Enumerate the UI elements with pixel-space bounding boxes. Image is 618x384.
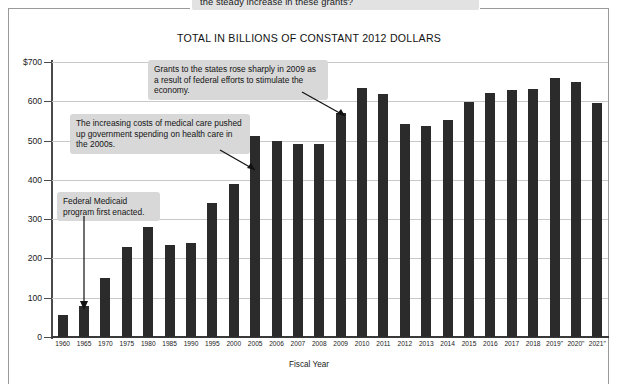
bar-2006 — [272, 141, 282, 337]
y-tick-300 — [44, 219, 52, 220]
bar-2007 — [293, 144, 303, 337]
y-axis-label-600: 600 — [2, 96, 42, 106]
bar-2011 — [378, 94, 388, 337]
y-tick-100 — [44, 298, 52, 299]
callout-medicaid-enacted: Federal Medicaid program first enacted. — [57, 192, 160, 221]
bar-1970 — [100, 278, 110, 337]
bar-2015 — [464, 102, 474, 337]
bar-2008 — [314, 144, 324, 337]
bar-2019 — [550, 78, 560, 337]
bar-2012 — [400, 124, 410, 337]
callout-2009-leader-line — [300, 90, 350, 120]
bar-1980 — [143, 227, 153, 337]
y-tick-200 — [44, 258, 52, 259]
y-tick-400 — [44, 180, 52, 181]
bar-1995 — [207, 203, 217, 337]
y-axis-label-200: 200 — [2, 253, 42, 263]
bar-1990 — [186, 243, 196, 337]
y-axis-label-400: 400 — [2, 175, 42, 185]
bar-2000 — [229, 184, 239, 337]
y-axis-label-700: $700 — [2, 57, 42, 67]
top-caption-text: the steady increase in these grants? — [200, 0, 480, 7]
x-axis-label-2021: 2021" — [584, 340, 610, 347]
y-axis-label-300: 300 — [2, 214, 42, 224]
bar-1985 — [165, 245, 175, 337]
y-axis-label-0: 0 — [2, 332, 42, 342]
bar-2018 — [528, 89, 538, 337]
x-axis-title: Fiscal Year — [0, 360, 618, 369]
y-tick-0 — [44, 337, 52, 338]
callout-medical-leader-line — [218, 148, 260, 174]
bar-1975 — [122, 247, 132, 337]
bar-2010 — [357, 88, 367, 337]
bar-2013 — [421, 126, 431, 337]
bar-2021 — [592, 103, 602, 337]
callout-medicaid-leader-line — [80, 216, 94, 312]
y-axis-label-500: 500 — [2, 136, 42, 146]
y-tick-600 — [44, 101, 52, 102]
bar-2014 — [443, 120, 453, 337]
y-tick-700 — [44, 62, 52, 63]
chart-title: TOTAL IN BILLIONS OF CONSTANT 2012 DOLLA… — [0, 32, 618, 44]
bar-2009 — [336, 113, 346, 337]
bar-2017 — [507, 90, 517, 337]
bar-2016 — [485, 93, 495, 337]
bar-2020 — [571, 82, 581, 337]
y-tick-500 — [44, 141, 52, 142]
y-axis-label-100: 100 — [2, 293, 42, 303]
bar-1960 — [58, 315, 68, 337]
